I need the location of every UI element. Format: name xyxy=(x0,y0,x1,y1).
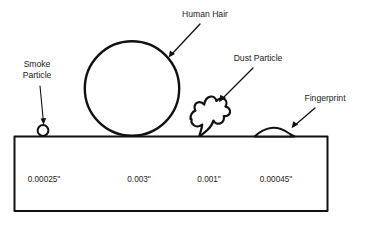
human-hair-shape xyxy=(85,41,179,135)
dust-particle-leader-line xyxy=(222,68,254,100)
substrate-surface xyxy=(15,137,328,212)
fingerprint-leader-line xyxy=(294,108,315,126)
smoke-particle-label-line2: Particle xyxy=(23,70,52,80)
particle-size-diagram: Smoke Particle Human Hair Dust Particle … xyxy=(0,0,365,230)
dust-particle-shape xyxy=(190,97,230,136)
human-hair-leader-line xyxy=(171,24,200,55)
fingerprint-shape xyxy=(255,128,295,137)
smoke-particle-label-line1: Smoke xyxy=(24,59,51,69)
diagram-canvas: Smoke Particle Human Hair Dust Particle … xyxy=(0,0,365,230)
fingerprint-measurement: 0.00045" xyxy=(260,175,293,184)
smoke-particle-shape xyxy=(38,125,49,136)
smoke-particle-measurement: 0.00025" xyxy=(28,175,61,184)
dust-particle-measurement: 0.001" xyxy=(197,175,220,184)
human-hair-label: Human Hair xyxy=(182,9,228,19)
fingerprint-leader-arrowhead xyxy=(292,121,299,128)
human-hair-measurement: 0.003" xyxy=(127,175,150,184)
smoke-particle-leader-arrowhead xyxy=(41,118,47,125)
dust-particle-label: Dust Particle xyxy=(234,53,283,63)
smoke-particle-leader-line xyxy=(40,86,44,123)
fingerprint-label: Fingerprint xyxy=(304,93,346,103)
